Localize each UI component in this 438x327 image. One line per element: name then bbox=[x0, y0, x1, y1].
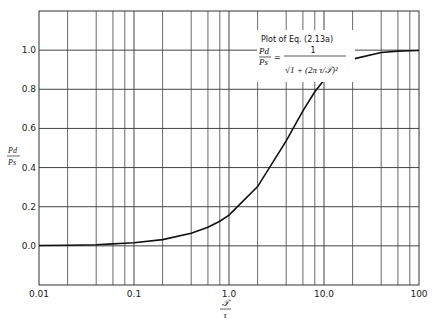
annotation-lhs-num: Pd bbox=[258, 46, 269, 56]
annotation-equals: = bbox=[274, 53, 281, 62]
annotation-rhs-num: 1 bbox=[310, 46, 315, 55]
x-axis-label: 𝒯 τ bbox=[220, 298, 232, 320]
y-tick-label: 0.6 bbox=[22, 123, 37, 133]
annotation-title: Plot of Eq. (2.13a) bbox=[261, 35, 333, 44]
annotation-lhs-den: Ps bbox=[258, 57, 268, 67]
x-tick-label: 0.01 bbox=[29, 289, 49, 299]
chart: 0.010.11.010.0100 0.00.20.40.60.81.0 Pd … bbox=[0, 0, 438, 327]
y-tick-label: 0.2 bbox=[22, 202, 36, 212]
y-tick-label: 0.8 bbox=[22, 84, 37, 94]
y-axis-label: Pd Ps bbox=[7, 146, 20, 167]
y-tick-label: 0.4 bbox=[22, 163, 37, 173]
x-tick-label: 100 bbox=[410, 289, 427, 299]
y-label-numerator: Pd bbox=[7, 146, 18, 155]
x-label-numerator: 𝒯 bbox=[222, 298, 232, 308]
x-label-denominator: τ bbox=[223, 310, 227, 320]
y-tick-label: 0.0 bbox=[22, 241, 37, 251]
x-tick-label: 0.1 bbox=[127, 289, 141, 299]
grid bbox=[39, 11, 419, 285]
y-tick-label: 1.0 bbox=[22, 45, 37, 55]
x-tick-label: 10.0 bbox=[314, 289, 334, 299]
y-label-denominator: Ps bbox=[7, 158, 16, 167]
y-tick-labels: 0.00.20.40.60.81.0 bbox=[22, 45, 37, 251]
annotation-rhs-den: √1 + (2π τ/𝒯)² bbox=[285, 65, 338, 75]
equation-annotation: Plot of Eq. (2.13a) Pd Ps = 1 √1 + (2π τ… bbox=[257, 30, 355, 82]
